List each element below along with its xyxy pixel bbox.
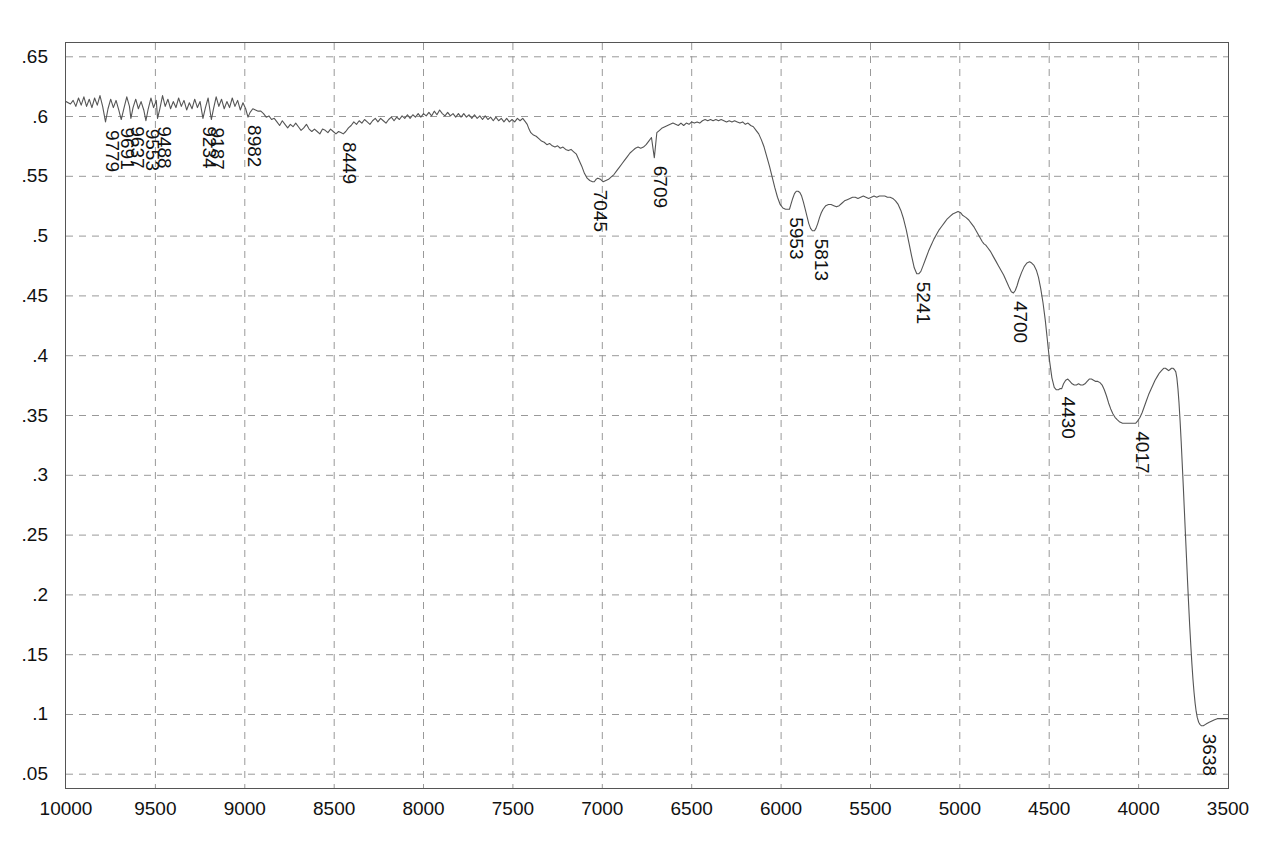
x-tick-label: 8000 xyxy=(402,798,444,820)
y-tick-label: .2 xyxy=(32,584,48,606)
grid-lines xyxy=(66,43,1228,788)
peak-label: 5813 xyxy=(811,239,832,281)
x-tick-label: 5000 xyxy=(939,798,981,820)
x-tick-label: 10000 xyxy=(40,798,93,820)
x-tick-label: 8500 xyxy=(313,798,355,820)
peak-label: 8449 xyxy=(339,142,360,184)
x-tick-label: 9500 xyxy=(134,798,176,820)
plot-area: 9779969196379553948892349187898284497045… xyxy=(65,42,1229,789)
x-tick-label: 5500 xyxy=(849,798,891,820)
peak-label: 4700 xyxy=(1010,301,1031,343)
peak-label: 3638 xyxy=(1199,734,1220,776)
peak-labels: 9779969196379553948892349187898284497045… xyxy=(102,125,1221,776)
x-tick-label: 4000 xyxy=(1117,798,1159,820)
peak-label: 4430 xyxy=(1058,397,1079,439)
peak-label: 5241 xyxy=(913,282,934,324)
y-tick-label: .35 xyxy=(22,405,48,427)
peak-label: 6709 xyxy=(650,166,671,208)
peak-label: 7045 xyxy=(590,190,611,232)
peak-label: 4017 xyxy=(1132,431,1153,473)
y-tick-label: .65 xyxy=(22,46,48,68)
x-tick-label: 6500 xyxy=(671,798,713,820)
peak-label: 9488 xyxy=(154,126,175,168)
spectrum-svg: 9779969196379553948892349187898284497045… xyxy=(66,43,1228,788)
y-tick-label: .6 xyxy=(32,106,48,128)
spectrum-line xyxy=(66,96,1228,726)
x-tick-label: 4500 xyxy=(1028,798,1070,820)
y-tick-label: .25 xyxy=(22,524,48,546)
y-tick-label: .55 xyxy=(22,165,48,187)
chart-container: .65.6.55.5.45.4.35.3.25.2.15.1.05 100009… xyxy=(0,0,1281,855)
y-tick-label: .15 xyxy=(22,644,48,666)
peak-label: 9187 xyxy=(207,128,228,170)
y-tick-label: .1 xyxy=(32,703,48,725)
y-tick-label: .45 xyxy=(22,285,48,307)
peak-label: 5953 xyxy=(786,217,807,259)
x-tick-label: 7000 xyxy=(581,798,623,820)
y-tick-label: .3 xyxy=(32,464,48,486)
x-tick-label: 7500 xyxy=(492,798,534,820)
peak-label: 8982 xyxy=(244,125,265,167)
y-tick-label: .4 xyxy=(32,345,48,367)
y-tick-label: .5 xyxy=(32,225,48,247)
x-tick-label: 9000 xyxy=(224,798,266,820)
y-tick-label: .05 xyxy=(22,763,48,785)
x-tick-label: 6000 xyxy=(760,798,802,820)
x-tick-label: 3500 xyxy=(1207,798,1249,820)
